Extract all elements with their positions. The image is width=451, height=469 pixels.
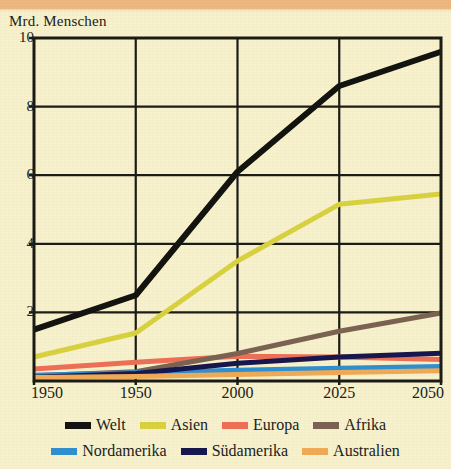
x-tick-label: 2000 xyxy=(222,385,254,401)
legend-swatch-icon xyxy=(222,422,248,429)
line-chart-svg xyxy=(0,0,451,400)
legend-item-label: Afrika xyxy=(344,417,386,433)
legend-item-label: Europa xyxy=(253,417,299,433)
x-tick-label: 1950 xyxy=(31,385,63,401)
grid-lines xyxy=(34,38,441,381)
legend-item[interactable]: Welt xyxy=(65,417,126,433)
y-tick-label: 6 xyxy=(6,167,34,182)
y-tick-label: 10 xyxy=(6,30,34,45)
legend-item[interactable]: Asien xyxy=(140,417,208,433)
chart-legend: WeltAsienEuropaAfrika NordamerikaSüdamer… xyxy=(0,412,451,469)
legend-swatch-icon xyxy=(65,422,91,429)
legend-item[interactable]: Australien xyxy=(302,443,400,459)
legend-swatch-icon xyxy=(302,448,328,455)
legend-item-label: Nordamerika xyxy=(82,443,166,459)
legend-item[interactable]: Europa xyxy=(222,417,299,433)
legend-swatch-icon xyxy=(181,448,207,455)
x-tick-label: 2025 xyxy=(323,385,355,401)
legend-row-secondary: NordamerikaSüdamerikaAustralien xyxy=(0,438,451,464)
legend-swatch-icon xyxy=(51,448,77,455)
x-tick-label: 1950 xyxy=(120,385,152,401)
legend-item[interactable]: Afrika xyxy=(313,417,386,433)
legend-item[interactable]: Südamerika xyxy=(181,443,288,459)
y-axis-tick-labels: 108642 xyxy=(0,0,34,400)
legend-swatch-icon xyxy=(313,422,339,429)
x-tick-label: 2050 xyxy=(412,385,444,401)
x-axis-tick-labels: 19501950200020252050 xyxy=(0,381,451,407)
legend-item[interactable]: Nordamerika xyxy=(51,443,166,459)
y-tick-label: 4 xyxy=(6,236,34,251)
legend-item-label: Australien xyxy=(333,443,400,459)
legend-item-label: Südamerika xyxy=(212,443,288,459)
legend-item-label: Welt xyxy=(96,417,126,433)
chart-figure: Mrd. Menschen 108642 1950195020002025205… xyxy=(0,0,451,469)
axis-ticks xyxy=(29,38,441,385)
legend-item-label: Asien xyxy=(171,417,208,433)
y-tick-label: 8 xyxy=(6,99,34,114)
plot-area: 108642 xyxy=(0,0,451,400)
legend-swatch-icon xyxy=(140,422,166,429)
legend-row-primary: WeltAsienEuropaAfrika xyxy=(0,412,451,438)
y-tick-label: 2 xyxy=(6,304,34,319)
